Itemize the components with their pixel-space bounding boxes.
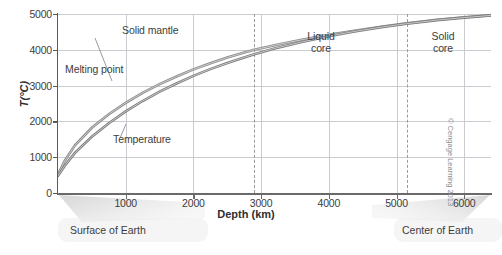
y-axis-label: T(°C)	[18, 64, 30, 124]
liquid-core-line-1: Liquid	[298, 30, 344, 42]
xtick-mark-6000	[464, 195, 465, 199]
ytick-mark-4000	[53, 50, 57, 51]
ytick-label-5000: 5000	[6, 8, 52, 20]
xtick-mark-4000	[329, 195, 330, 199]
copyright-notice: © Cengage Learning 2013	[446, 118, 455, 228]
x-axis-label: Depth (km)	[186, 208, 306, 220]
liquid-core-line-2: core	[298, 42, 344, 54]
callout-center-of-earth: Center of Earth	[402, 224, 473, 236]
annotation-melting-point: Melting point	[65, 63, 123, 75]
xtick-label-4000: 4000	[299, 197, 359, 209]
xtick-mark-3000	[261, 195, 262, 199]
callout-surface-of-earth: Surface of Earth	[70, 224, 146, 236]
x-axis-line	[57, 193, 492, 195]
xtick-label-6000: 6000	[434, 197, 494, 209]
ytick-mark-1000	[53, 157, 57, 158]
annotation-solid-mantle: Solid mantle	[122, 24, 179, 36]
solid-core-line-1: Solid	[422, 30, 464, 42]
annotation-solid-core: Solid core	[422, 30, 464, 54]
ytick-mark-3000	[53, 86, 57, 87]
plot-area: Solid mantle Melting point Temperature L…	[58, 14, 491, 193]
xtick-mark-1000	[126, 195, 127, 199]
annotation-liquid-core: Liquid core	[298, 30, 344, 54]
ytick-mark-2000	[53, 121, 57, 122]
xtick-label-5000: 5000	[367, 197, 427, 209]
xtick-label-1000: 1000	[96, 197, 156, 209]
ytick-label-0: 0	[6, 187, 52, 199]
temperature-depth-chart: Solid mantle Melting point Temperature L…	[0, 0, 502, 255]
ytick-mark-5000	[53, 14, 57, 15]
solid-core-line-2: core	[422, 42, 464, 54]
xtick-mark-2000	[193, 195, 194, 199]
ytick-label-1000: 1000	[6, 151, 52, 163]
ytick-label-4000: 4000	[6, 44, 52, 56]
xtick-mark-5000	[397, 195, 398, 199]
ytick-mark-0	[53, 193, 57, 194]
annotation-temperature: Temperature	[113, 133, 171, 145]
